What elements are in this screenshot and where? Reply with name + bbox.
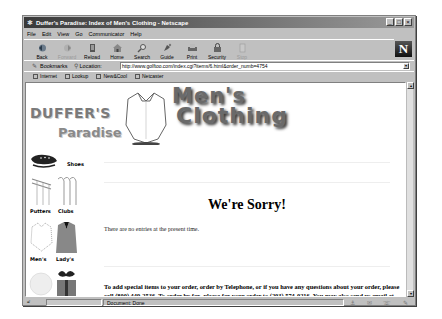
page-content: DUFFER'S Paradise Men's Clothing Shoes P… [25,82,406,297]
personal-item-internet[interactable]: Internet [33,73,57,79]
divider-1 [104,162,390,163]
ladys-label: Lady's [56,256,74,262]
home-button[interactable]: Home [105,40,129,60]
no-entries-message: There are no entries at the present time… [104,226,199,232]
personal-toolbar: Internet Lookup New&Cool Netcaster [24,71,414,80]
category-shoes[interactable]: Shoes [29,153,79,175]
logo-duffers: DUFFER'S [30,105,111,121]
menu-go[interactable]: Go [75,31,82,37]
maximize-button[interactable]: □ [395,18,403,26]
shoe-icon [29,153,59,171]
location-icon: ⚲ [74,63,78,69]
stop-icon [237,43,248,53]
back-arrow-icon [37,43,48,53]
page-heading: We're Sorry! [104,197,390,213]
url-input[interactable]: http://www.golftoo.com/index.cgi?items/6… [120,62,410,70]
menu-communicator[interactable]: Communicator [89,31,125,37]
back-button[interactable]: Back [30,40,54,60]
location-label: Location: [80,63,102,69]
composer-icon[interactable]: ✎︎ [403,299,408,306]
forward-button[interactable]: Forward [55,40,79,60]
url-text: http://www.golftoo.com/index.cgi?items/6… [122,63,268,69]
bookmark-icon [33,74,38,79]
security-button[interactable]: Security [205,40,229,60]
menu-view[interactable]: View [57,31,69,37]
browser-window: ✱ Duffer's Paradise: Index of Men's Clot… [22,15,416,306]
banner-clothing: Clothing [176,105,288,127]
category-ladys[interactable]: Lady's [54,221,79,263]
mens-label: Men's [30,256,46,262]
minimize-button[interactable]: _ [386,18,394,26]
divider-2 [104,182,390,183]
search-icon [137,43,148,53]
shirt-icon [122,89,170,145]
security-icon [212,43,223,53]
navigator-icon[interactable]: ⚓︎ [350,299,355,306]
bookmark-icon [65,74,70,79]
title-bar[interactable]: ✱ Duffer's Paradise: Index of Men's Clot… [24,17,414,28]
order-info-paragraph: To add special items to your order, orde… [104,282,404,297]
divider-3 [104,266,390,267]
status-bar: 🔓︎ Document: Done ⚓︎ ✉︎ ☏︎ ✎︎ [24,298,414,306]
category-balls[interactable] [29,268,54,297]
scroll-down-button[interactable]: ▾ [407,290,414,297]
discussion-icon[interactable]: ☏︎ [383,299,391,306]
clubs-label: Clubs [58,208,74,214]
stop-button[interactable]: Stop [230,40,254,60]
menu-edit[interactable]: Edit [42,31,51,37]
component-bar: ⚓︎ ✉︎ ☏︎ ✎︎ [344,299,414,306]
personal-item-newcool[interactable]: New&Cool [96,73,127,79]
status-text: Document: Done [103,299,344,306]
search-button[interactable]: Search [130,40,154,60]
guide-button[interactable]: Guide [155,40,179,60]
window-title: Duffer's Paradise: Index of Men's Clothi… [36,20,188,26]
putters-label: Putters [30,208,51,214]
golf-ball-icon [29,268,54,297]
personal-item-netcaster[interactable]: Netcaster [135,73,163,79]
menu-bar: File Edit View Go Communicator Help [25,29,142,38]
security-lock-icon[interactable]: 🔓︎ [24,298,46,306]
navigation-toolbar: Back Forward Reload Home Search Guide Pr… [24,39,394,59]
home-icon [112,43,123,53]
vertical-scrollbar[interactable]: ▴ ▾ [406,82,413,297]
progress-bar [46,299,102,306]
netscape-app-icon: ✱ [26,19,34,27]
url-dropdown-button[interactable]: ▾ [403,63,409,69]
print-icon [187,43,198,53]
mens-shirt-icon [29,221,54,255]
putter-icon [29,175,54,207]
bookmark-icon [96,74,101,79]
ladys-jacket-icon [54,221,79,255]
personal-item-lookup[interactable]: Lookup [65,73,88,79]
logo-paradise: Paradise [58,125,121,140]
category-putters[interactable]: Putters [29,175,54,215]
forward-arrow-icon [62,43,73,53]
reload-button[interactable]: Reload [80,40,104,60]
print-button[interactable]: Print [180,40,204,60]
category-gifts[interactable] [54,268,79,297]
location-toolbar: ✎ Bookmarks ⚲ Location: http://www.golft… [24,60,414,70]
scroll-up-button[interactable]: ▴ [407,82,414,89]
guide-icon [162,43,173,53]
close-button[interactable]: × [404,18,412,26]
shoes-label: Shoes [67,161,84,167]
category-mens[interactable]: Men's [29,221,54,263]
bookmarks-button[interactable]: Bookmarks [40,63,68,69]
menu-file[interactable]: File [27,31,36,37]
bookmarks-icon[interactable]: ✎ [32,63,37,69]
category-clubs[interactable]: Clubs [54,175,79,215]
mail-icon[interactable]: ✉︎ [367,299,372,306]
menu-help[interactable]: Help [130,31,141,37]
netscape-logo[interactable]: N [395,41,412,57]
bookmark-icon [135,74,140,79]
reload-icon [87,43,98,53]
gift-icon [54,268,79,297]
clubs-icon [54,175,79,207]
